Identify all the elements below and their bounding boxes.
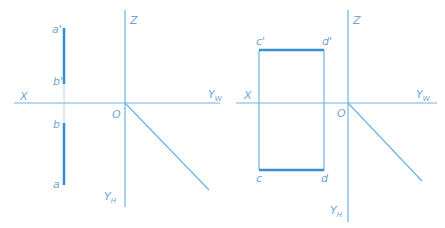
projection-diagram: a' b' b a Z X O YW YH c' d' c d Z X O YW… <box>0 0 445 228</box>
label-yw: YW <box>416 88 431 103</box>
left-projection: a' b' b a Z X O YW YH <box>14 10 223 207</box>
label-b: b <box>53 118 60 131</box>
label-a: a <box>53 178 60 191</box>
label-origin: O <box>337 107 346 120</box>
label-yh: YH <box>104 190 117 205</box>
right-45-line <box>348 103 422 181</box>
label-yw: YW <box>208 88 223 103</box>
label-z: Z <box>352 14 361 27</box>
label-d: d <box>321 172 329 185</box>
label-a-prime: a' <box>52 23 62 36</box>
left-45-line <box>125 103 209 190</box>
label-z: Z <box>129 14 138 27</box>
right-projection: c' d' c d Z X O YW YH <box>236 10 437 222</box>
label-d-prime: d' <box>322 35 332 48</box>
label-c: c <box>256 172 262 185</box>
label-origin: O <box>112 108 121 121</box>
label-x: X <box>243 89 252 102</box>
label-b-prime: b' <box>53 75 63 88</box>
label-yh: YH <box>330 204 343 219</box>
label-c-prime: c' <box>256 35 265 48</box>
label-x: X <box>19 90 28 103</box>
